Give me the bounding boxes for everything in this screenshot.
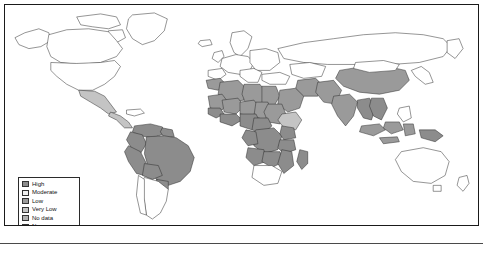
legend-swatch-no-data xyxy=(22,215,29,221)
country-indonesia-sulawesi[interactable] xyxy=(403,124,415,136)
legend-label-no-data: No data xyxy=(32,215,53,222)
legend-item[interactable]: No data xyxy=(22,214,77,222)
legend-label-moderate: Moderate xyxy=(32,189,57,196)
legend-item[interactable]: High xyxy=(22,180,77,188)
legend-swatch-moderate xyxy=(22,190,29,196)
legend-label-high: High xyxy=(32,181,44,188)
country-tasmania[interactable] xyxy=(433,185,441,191)
legend-swatch-high xyxy=(22,181,29,187)
legend-swatch-very-low xyxy=(22,207,29,213)
footer-divider xyxy=(0,243,483,244)
legend-item[interactable]: Moderate xyxy=(22,189,77,197)
legend-swatch-none xyxy=(22,224,29,227)
legend-label-low: Low xyxy=(32,198,43,205)
legend: High Moderate Low Very Low No data None xyxy=(18,177,80,226)
legend-item[interactable]: None xyxy=(22,223,77,227)
map-frame: High Moderate Low Very Low No data None xyxy=(4,4,479,226)
legend-label-very-low: Very Low xyxy=(32,206,57,213)
legend-item[interactable]: Low xyxy=(22,197,77,205)
legend-swatch-low xyxy=(22,198,29,204)
legend-label-none: None xyxy=(32,223,46,226)
legend-item[interactable]: Very Low xyxy=(22,206,77,214)
country-uganda-kenya[interactable] xyxy=(280,126,296,140)
map-figure: High Moderate Low Very Low No data None xyxy=(0,0,483,269)
